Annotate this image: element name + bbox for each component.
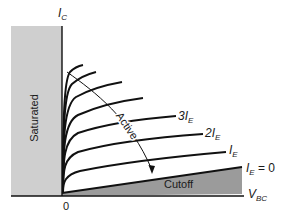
- curve-4: [63, 98, 143, 190]
- arrowhead-icon: [149, 165, 156, 174]
- label-2ie: 2IE: [204, 126, 221, 142]
- origin-label: 0: [63, 200, 69, 212]
- active-label: Active: [114, 110, 141, 142]
- active-arrow: [67, 72, 152, 170]
- label-3ie: 3IE: [178, 109, 194, 125]
- transistor-characteristics-diagram: Saturated Active Cutoff IC VBC 0 3IE 2IE…: [0, 0, 285, 219]
- x-axis-label: VBC: [248, 187, 267, 203]
- saturated-label: Saturated: [28, 94, 40, 142]
- y-axis-label: IC: [58, 6, 67, 22]
- cutoff-label: Cutoff: [164, 178, 194, 190]
- label-ie-zero: IE = 0: [246, 161, 275, 177]
- label-ie: IE: [229, 143, 238, 159]
